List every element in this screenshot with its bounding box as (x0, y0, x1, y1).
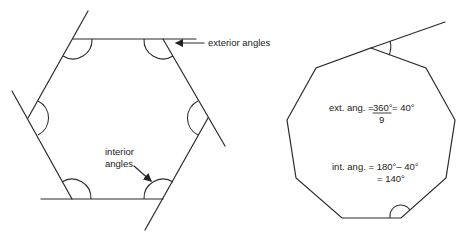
exterior-angles-label: exterior angles (208, 37, 271, 48)
interior-angles-arrow (134, 166, 151, 181)
nonagon-exterior-angle-arc (389, 41, 391, 55)
ext-angle-result: = 40° (392, 102, 415, 113)
ext-angle-numerator: 360° (373, 102, 393, 113)
interior-angles-label-line1: interior (105, 146, 134, 157)
ext-angle-formula-prefix: ext. ang. = (329, 102, 374, 113)
nonagon-figure: ext. ang. = 360° 9 = 40° int. ang. = 180… (287, 22, 455, 218)
interior-angles-label-line2: angles (105, 158, 133, 169)
polygon-angles-diagram: exterior angles interior angles ext. ang… (0, 0, 465, 239)
hex-upper-right-side (163, 39, 225, 146)
int-angle-formula-line1: int. ang. = 180°– 40° (332, 161, 419, 172)
ext-angle-denominator: 9 (379, 114, 384, 125)
hex-lower-left-side (12, 91, 72, 199)
nonagon-side-extension (371, 22, 445, 48)
hex-lower-right-side (145, 118, 208, 230)
hex-angle-arc-left (38, 101, 49, 135)
nonagon-interior-angle-arc (390, 205, 410, 218)
hexagon-figure: exterior angles interior angles (12, 11, 271, 230)
nonagon-outline (287, 48, 455, 218)
hex-angle-arc-right (187, 101, 198, 135)
hex-upper-left-side (28, 11, 88, 118)
int-angle-formula-line2: = 140° (377, 173, 405, 184)
